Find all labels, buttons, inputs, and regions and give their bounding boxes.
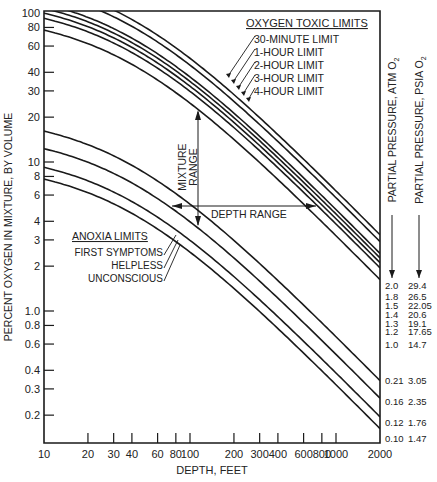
anoxia-limit-label: FIRST SYMPTOMS [74, 247, 163, 258]
y-tick-label: 2 [34, 260, 40, 272]
toxic-limit-label: 3-HOUR LIMIT [254, 72, 325, 84]
y-tick-label: 0.8 [25, 319, 40, 331]
depth-range-label: DEPTH RANGE [211, 208, 287, 220]
y-tick-label: 6 [34, 189, 40, 201]
x-tick-label: 400 [269, 448, 287, 460]
y-tick-label: 80 [28, 21, 40, 33]
y-tick-label: 0.2 [25, 409, 40, 421]
toxic-limit-label: 1-HOUR LIMIT [254, 46, 325, 58]
toxic-limits-title: OXYGEN TOXIC LIMITS [246, 17, 368, 29]
right-axis-labels: 2.029.41.826.51.522.051.420.61.319.11.21… [385, 56, 432, 444]
toxic-limit-label: 4-HOUR LIMIT [254, 85, 325, 97]
atm-value: 0.10 [385, 433, 404, 444]
psia-value: 3.05 [408, 375, 427, 386]
svg-text:PARTIAL PRESSURE, PSIA O2: PARTIAL PRESSURE, PSIA O2 [413, 56, 427, 203]
toxic-limit-label: 2-HOUR LIMIT [254, 59, 325, 71]
x-tick-label: 20 [82, 448, 94, 460]
x-tick-label: 600 [294, 448, 312, 460]
x-axis-label: DEPTH, FEET [176, 464, 248, 476]
y-tick-label: 0.6 [25, 338, 40, 350]
y-tick-label: 8 [34, 170, 40, 182]
x-axis-ticks: 10203040608010020030040060080010002000 [38, 433, 392, 460]
x-tick-label: 40 [126, 448, 138, 460]
y-tick-label: 20 [28, 111, 40, 123]
x-tick-label: 300 [250, 448, 268, 460]
oxygen-limits-chart: 100806040302010864321.00.80.60.40.30.2 1… [0, 0, 437, 482]
psia-value: 1.47 [408, 433, 427, 444]
psia-value: 1.76 [408, 417, 427, 428]
y-tick-label: 1.0 [25, 305, 40, 317]
toxic-limit-label: 30-MINUTE LIMIT [254, 33, 340, 45]
x-tick-label: 60 [151, 448, 163, 460]
curve-1_0 [44, 30, 380, 280]
atm-value: 1.2 [385, 326, 398, 337]
y-axis-label: PERCENT OXYGEN IN MIXTURE, BY VOLUME [2, 113, 14, 341]
x-tick-label: 1000 [324, 448, 348, 460]
y-tick-label: 3 [34, 234, 40, 246]
y-tick-label: 0.4 [25, 364, 40, 376]
anoxia-limit-label: UNCONSCIOUS [88, 273, 163, 284]
psia-value: 29.4 [408, 280, 427, 291]
y-tick-label: 0.3 [25, 383, 40, 395]
y-tick-label: 4 [34, 215, 40, 227]
svg-text:PARTIAL PRESSURE, ATM O2: PARTIAL PRESSURE, ATM O2 [386, 58, 400, 203]
y-tick-label: 10 [28, 156, 40, 168]
y-tick-label: 100 [22, 7, 40, 19]
y-axis-ticks: 100806040302010864321.00.80.60.40.30.2 [22, 7, 54, 421]
y-tick-label: 30 [28, 85, 40, 97]
psia-value: 14.7 [408, 339, 427, 350]
anoxia-limits-title: ANOXIA LIMITS [72, 230, 148, 242]
anoxia-limit-label: HELPLESS [111, 260, 163, 271]
atm-value: 0.12 [385, 417, 404, 428]
x-tick-label: 10 [38, 448, 50, 460]
x-tick-label: 200 [225, 448, 243, 460]
curve-1_3 [44, 13, 380, 263]
y-tick-label: 60 [28, 40, 40, 52]
atm-value: 0.16 [385, 396, 404, 407]
x-tick-label: 100 [181, 448, 199, 460]
mixture-range-label-2: RANGE [187, 148, 199, 185]
x-tick-label: 30 [108, 448, 120, 460]
atm-value: 0.21 [385, 375, 404, 386]
x-tick-label: 2000 [368, 448, 392, 460]
psia-value: 2.35 [408, 396, 427, 407]
y-tick-label: 40 [28, 66, 40, 78]
psia-value: 17.65 [408, 326, 432, 337]
atm-value: 2.0 [385, 280, 398, 291]
atm-value: 1.0 [385, 339, 398, 350]
